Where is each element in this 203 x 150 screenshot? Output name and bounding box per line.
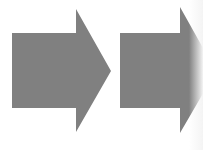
right-edge-fade (189, 0, 203, 150)
arrow-diagram (0, 0, 203, 150)
right-arrow-1-icon (12, 9, 111, 132)
